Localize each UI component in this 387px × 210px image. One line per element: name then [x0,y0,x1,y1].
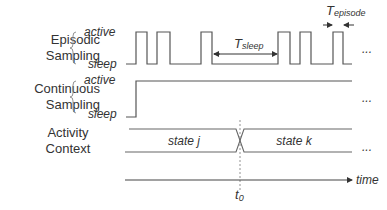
context-line-lower-to-upper [125,129,352,152]
transition-time-label: t0 [235,187,244,203]
continuous-sleep-level: sleep [88,107,117,121]
activity-context-row: Activity Context state j state k ... [46,125,372,156]
episodic-sleep-level: sleep [88,57,117,71]
episodic-active-level: active [84,25,116,39]
state-j-label: state j [168,134,200,148]
continuous-active-level: active [84,73,116,87]
state-k-label: state k [276,134,312,148]
t-episode-label: Tepisode [326,3,365,18]
time-axis-label: time [356,173,379,187]
activity-label-line1: Activity [47,125,89,140]
episodic-continuation: ... [362,42,372,56]
activity-label-line2: Context [46,141,91,156]
continuous-sampling-row: Continuous Sampling active sleep ... [34,73,372,121]
episodic-sampling-row: Episodic Sampling active sleep Tsleep Te… [46,3,372,71]
sampling-timing-diagram: Episodic Sampling active sleep Tsleep Te… [0,0,387,210]
continuous-continuation: ... [362,91,372,105]
t-sleep-label: Tsleep [234,36,263,51]
activity-continuation: ... [362,140,372,154]
continuous-waveform [126,81,352,117]
